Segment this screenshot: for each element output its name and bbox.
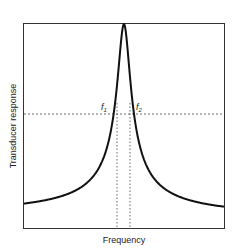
x-axis-label: Frequency [103, 235, 146, 245]
f2-label: f2 [136, 102, 143, 113]
f1-label: f1 [101, 102, 107, 113]
resonance-chart: f1 f2 Frequency Transducer response [0, 0, 238, 249]
y-axis-label: Transducer response [8, 84, 18, 169]
response-curve [24, 24, 224, 207]
